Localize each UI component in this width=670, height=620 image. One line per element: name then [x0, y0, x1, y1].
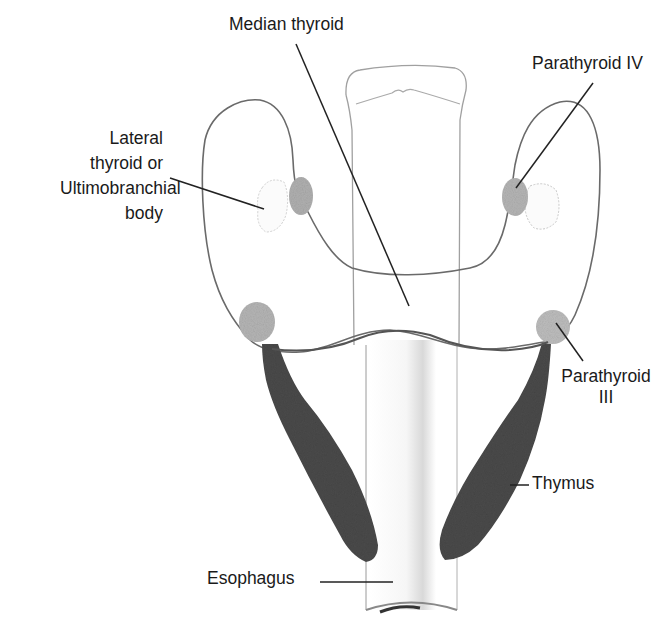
label-parathyroid-iv: Parathyroid IV — [532, 53, 643, 74]
parathyroid-iii-right — [536, 310, 570, 344]
leader-parathyroid-iv — [516, 83, 593, 188]
label-esophagus: Esophagus — [207, 568, 295, 589]
label-parathyroid-iii-line1: Parathyroid — [551, 366, 661, 387]
label-thymus: Thymus — [532, 473, 594, 494]
left-ultimobranchial-body — [258, 180, 288, 232]
label-parathyroid-iii: Parathyroid III — [551, 366, 661, 408]
right-ultimobranchial-body — [525, 184, 559, 229]
parathyroid-iii-left — [239, 302, 275, 342]
parathyroid-iv-left — [289, 177, 313, 215]
leader-lateral-thyroid — [170, 178, 264, 209]
label-parathyroid-iii-line2: III — [551, 387, 661, 408]
label-lateral-thyroid-line4: body — [60, 201, 163, 226]
parathyroid-iv-right — [502, 178, 528, 216]
thyroid-diagram — [0, 0, 670, 620]
label-lateral-thyroid-line3: Ultimobranchial — [60, 176, 163, 201]
label-lateral-thyroid-line2: thyroid or — [60, 151, 163, 176]
esophagus-tube — [366, 340, 457, 612]
pharynx-tube — [346, 65, 466, 345]
label-lateral-thyroid-line1: Lateral — [60, 126, 163, 151]
thymus-right-lobe — [440, 343, 551, 560]
label-median-thyroid: Median thyroid — [229, 14, 344, 35]
leader-median-thyroid — [296, 44, 409, 306]
label-lateral-thyroid: Lateral thyroid or Ultimobranchial body — [60, 126, 163, 226]
thymus-left-lobe — [262, 344, 378, 562]
